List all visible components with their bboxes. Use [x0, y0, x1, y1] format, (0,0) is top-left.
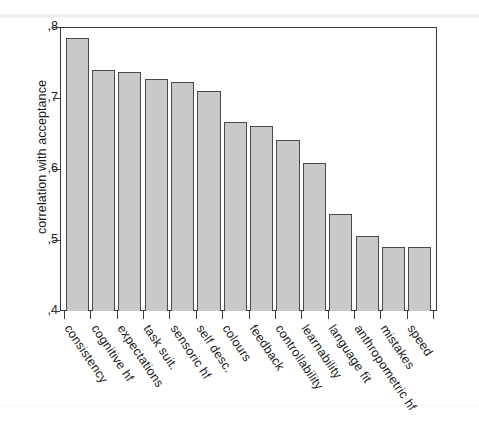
bar-slot — [249, 27, 275, 311]
bar-slot — [90, 27, 116, 311]
x-axis-tick-mark — [354, 311, 355, 319]
y-axis-tick-mark — [53, 169, 60, 170]
x-axis-tick-mark — [380, 311, 381, 319]
bar-slot — [380, 27, 406, 311]
bar — [145, 79, 168, 311]
bar-slot — [117, 27, 143, 311]
bar-slot — [196, 27, 222, 311]
bar — [250, 126, 273, 311]
x-axis-tick-marks — [60, 311, 437, 320]
bar — [382, 247, 405, 311]
x-axis-tick-mark — [64, 311, 65, 319]
x-axis-tick-mark — [90, 311, 91, 319]
bar — [276, 140, 299, 311]
bar — [329, 214, 352, 311]
bar-chart-figure: correlation with acceptance ,8,7,6,5,4 c… — [0, 0, 479, 431]
bar-slot — [143, 27, 169, 311]
bar-series — [60, 27, 437, 311]
y-axis-tick-labels: ,8,7,6,5,4 — [32, 0, 58, 311]
bar — [303, 163, 326, 311]
y-axis-tick-mark — [53, 27, 60, 28]
x-axis-tick-mark — [301, 311, 302, 319]
scan-artifact-top — [0, 13, 479, 18]
x-axis-tick-mark — [249, 311, 250, 319]
bar-slot — [169, 27, 195, 311]
x-axis-tick-mark — [169, 311, 170, 319]
x-axis-category-labels: consistencycognitive hfexpectationstask … — [60, 322, 437, 422]
x-axis-tick-mark — [275, 311, 276, 319]
bar — [171, 82, 194, 311]
bar-slot — [301, 27, 327, 311]
bar — [66, 38, 89, 311]
bar-slot — [328, 27, 354, 311]
bar-slot — [354, 27, 380, 311]
bar-slot — [64, 27, 90, 311]
bar-slot — [222, 27, 248, 311]
bar — [92, 70, 115, 311]
bar — [408, 247, 431, 311]
y-axis-tick-mark — [53, 311, 60, 312]
y-axis-tick-mark — [53, 240, 60, 241]
x-axis-tick-mark — [407, 311, 408, 319]
bar-slot — [407, 27, 433, 311]
bar — [197, 91, 220, 311]
x-axis-tick-mark — [222, 311, 223, 319]
bar — [118, 72, 141, 311]
y-axis-tick-mark — [53, 98, 60, 99]
x-axis-tick-mark — [196, 311, 197, 319]
x-axis-tick-mark — [117, 311, 118, 319]
bar-slot — [275, 27, 301, 311]
bar — [224, 122, 247, 311]
x-axis-tick-mark — [143, 311, 144, 319]
x-axis-tick-mark — [433, 311, 434, 319]
x-axis-tick-mark — [328, 311, 329, 319]
bar — [356, 236, 379, 311]
